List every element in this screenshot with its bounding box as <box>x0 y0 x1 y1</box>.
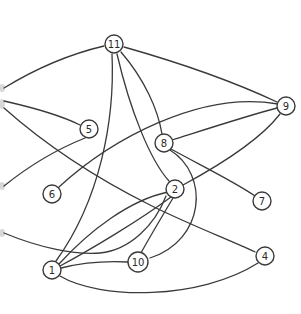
edge-1-10 <box>61 262 128 268</box>
edge-8-1 <box>150 150 196 258</box>
edge-left-5 <box>4 101 80 125</box>
node-label: 9 <box>283 101 289 112</box>
node-label: 5 <box>86 124 92 135</box>
node-6[interactable]: 6 <box>43 185 61 203</box>
node-4[interactable]: 4 <box>256 247 274 265</box>
node-label: 2 <box>172 184 178 195</box>
edge-11-9 <box>124 47 277 102</box>
node-label: 6 <box>49 189 55 200</box>
node-1[interactable]: 1 <box>43 261 61 279</box>
edge-1-4 <box>60 263 258 293</box>
edge-8-9 <box>172 108 277 140</box>
node-5[interactable]: 5 <box>80 120 98 138</box>
node-9[interactable]: 9 <box>277 97 295 115</box>
edge-2-1 <box>59 192 168 264</box>
node-7[interactable]: 7 <box>253 192 271 210</box>
node-11[interactable]: 11 <box>105 35 123 53</box>
edge-left-11 <box>4 46 104 88</box>
edge-11-1 <box>56 54 112 261</box>
node-8[interactable]: 8 <box>155 134 173 152</box>
edge-left-4 <box>4 108 255 252</box>
graph-diagram: 11 9 5 8 6 2 7 10 <box>0 0 301 314</box>
node-2[interactable]: 2 <box>166 180 184 198</box>
edge-11-2 <box>117 54 169 181</box>
left-edge-stubs <box>0 84 5 237</box>
node-label: 11 <box>108 39 121 50</box>
node-label: 10 <box>132 257 145 268</box>
node-label: 7 <box>259 196 265 207</box>
node-10[interactable]: 10 <box>128 252 148 272</box>
node-label: 1 <box>49 265 55 276</box>
node-label: 8 <box>161 138 167 149</box>
edge-2-9 <box>183 114 280 185</box>
edge-left-2 <box>4 196 166 253</box>
node-label: 4 <box>262 251 268 262</box>
edge-left-9 <box>4 138 85 186</box>
